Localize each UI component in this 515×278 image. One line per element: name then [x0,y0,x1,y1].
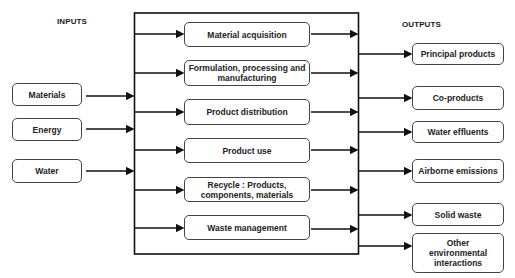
output-water-effluents: Water effluents [412,121,504,143]
output-solid-waste: Solid waste [412,203,504,226]
input-materials: Materials [12,83,82,106]
output-co-products: Co-products [412,86,504,110]
stage-material-acquisition: Material acquisition [184,22,310,47]
stage-formulation: Formulation, processing and manufacturin… [184,60,310,86]
input-energy: Energy [12,118,82,141]
outputs-header: OUTPUTS [402,20,441,29]
output-airborne-emissions: Airborne emissions [412,159,504,183]
stage-product-use: Product use [184,138,310,163]
stage-recycle: Recycle : Products, components, material… [184,177,310,202]
inputs-header: INPUTS [57,17,87,26]
input-water: Water [12,159,82,183]
stage-waste-management: Waste management [184,215,310,240]
stage-product-distribution: Product distribution [184,99,310,125]
output-principal-products: Principal products [412,43,504,65]
output-other-environmental-interactions: Other environmental interactions [412,233,504,273]
